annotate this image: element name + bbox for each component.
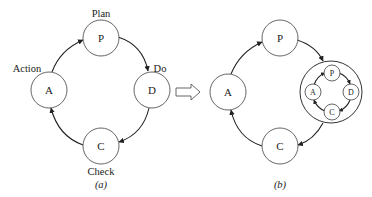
nested-node-plan-letter: P [330,69,335,78]
hollow-right-arrow-icon [176,84,200,100]
nested-node-do: D [343,84,359,100]
node-check-letter: C [97,140,104,152]
nested-node-action-letter: A [310,88,316,97]
label-do: Do [154,63,167,74]
arc-check-to-action [51,108,83,145]
node-plan: P [83,20,119,56]
caption-b: (b) [274,179,287,191]
arc-b-nested-to-check [298,123,323,145]
arc-b-plan-to-nested [297,40,323,61]
node-check: C [83,128,119,164]
node-b-action: A [210,74,246,110]
nested-pdca-cycle: P D C A [300,61,362,123]
diagram-b: P A C P D C [210,20,362,191]
node-do: D [134,72,170,108]
node-b-check-letter: C [276,140,283,152]
label-check: Check [88,166,116,177]
node-b-plan: P [262,20,298,56]
label-plan: Plan [92,8,111,19]
label-action: Action [13,63,42,74]
arc-b-check-to-action [231,110,262,146]
caption-a: (a) [95,179,108,191]
nested-node-plan: P [324,65,340,81]
nested-node-check: C [324,104,340,120]
node-plan-letter: P [98,32,104,44]
nested-node-check-letter: C [329,108,334,117]
node-b-check: C [262,128,298,164]
node-b-plan-letter: P [277,32,283,44]
node-do-letter: D [148,84,156,96]
arc-plan-to-do [118,37,148,71]
node-action: A [31,72,67,108]
arc-do-to-check [119,108,149,142]
arc-action-to-plan [52,40,83,72]
diagram-a: P D C A Plan Do Check Action (a) [13,8,170,191]
nested-node-do-letter: D [348,88,354,97]
node-b-action-letter: A [224,86,232,98]
nested-node-action: A [305,84,321,100]
arc-b-action-to-plan [231,42,262,74]
pdca-diagram: P D C A Plan Do Check Action (a) [0,0,372,197]
node-action-letter: A [45,84,53,96]
